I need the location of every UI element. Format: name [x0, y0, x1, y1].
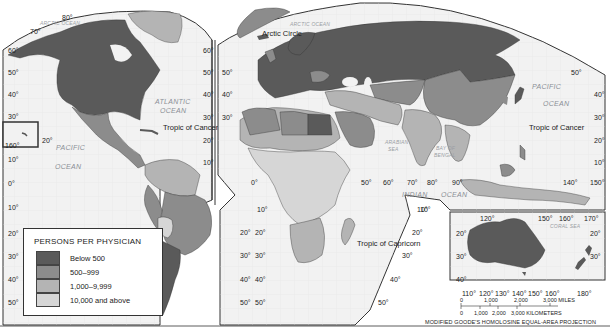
atlantic-label-2: OCEAN — [160, 107, 186, 114]
bay-of-bengal-label-2: BENGAL — [434, 153, 456, 158]
lon-label: 140° — [563, 179, 577, 186]
lon-label: 50° — [361, 179, 372, 186]
scale-km-2000: 2,000 — [492, 311, 506, 317]
legend-label: 1,000–9,999 — [70, 282, 112, 291]
lat-label: 40° — [390, 276, 401, 283]
lat-label: 50° — [222, 69, 233, 76]
aus-lon-label: 120° — [479, 290, 493, 297]
scale-miles-2000: 2,000 — [514, 298, 528, 304]
southern-africa — [290, 218, 325, 263]
scale-km-3000: 3,000 KILOMETERS — [511, 311, 562, 317]
aus-lat-label: 30° — [456, 253, 467, 260]
arctic-circle-label: Arctic Circle — [262, 30, 302, 38]
scale-km-1000: 1,000 — [474, 311, 488, 317]
legend-item-below-500: Below 500 — [36, 251, 156, 265]
lat-label: 50° — [8, 69, 19, 76]
lat-label: 40° — [240, 276, 251, 283]
scale-km-0: 0 — [460, 311, 463, 317]
indian-label-1: INDIAN — [402, 191, 428, 198]
lat-label: 30° — [402, 252, 413, 259]
lat-label: 50° — [255, 299, 266, 306]
legend-item-1000-9999: 1,000–9,999 — [36, 279, 156, 293]
lat-label: 20° — [203, 137, 214, 144]
lon-label: 150° — [590, 179, 604, 186]
aus-lon-label: 140° — [512, 290, 526, 297]
legend-item-10000-above: 10,000 and above — [36, 293, 156, 307]
aus-lon-label: 120° — [480, 215, 494, 222]
legend-swatch — [36, 293, 60, 307]
aus-lon-label: 160° — [559, 215, 573, 222]
legend-swatch — [36, 279, 60, 293]
lat-label: 30° — [255, 252, 266, 259]
lat-label: 10° — [8, 156, 19, 163]
arctic-ocean-label: ARCTIC OCEAN — [40, 21, 80, 26]
aus-lon-label: 170° — [584, 215, 598, 222]
lat-label: 30° — [222, 114, 233, 121]
lat-label: 40° — [8, 276, 19, 283]
tropic-of-cancer-right-label: Tropic of Cancer — [529, 124, 584, 132]
legend-label: 500–999 — [70, 268, 99, 277]
aus-lat-label: 30° — [590, 253, 601, 260]
legend-swatch — [36, 265, 60, 279]
aus-lon-label: 150° — [528, 290, 542, 297]
libya — [280, 111, 308, 135]
lat-label: 30° — [203, 114, 214, 121]
equator-label: 0° — [251, 179, 258, 186]
lat-label: 50° — [378, 299, 389, 306]
pacific-left-label-2: OCEAN — [55, 163, 81, 170]
lat-label: 30° — [240, 252, 251, 259]
aus-lat-label: 20° — [590, 230, 601, 237]
arabian-sea-label-2: SEA — [388, 147, 399, 152]
lat-label: 40° — [222, 91, 233, 98]
lon-label: 60° — [383, 179, 394, 186]
lat-label: 10° — [203, 159, 214, 166]
hawaii-lat-label: 20° — [42, 137, 53, 144]
lat-label: 20° — [240, 229, 251, 236]
lat-label: 60° — [203, 47, 214, 54]
lat-label: 20° — [255, 229, 266, 236]
arctic-ocean-label-right: ARCTIC OCEAN — [290, 22, 330, 27]
aus-lon-label: 160° — [545, 290, 559, 297]
aus-lat-label: 20° — [456, 230, 467, 237]
scale-miles-1000: 1,000 — [484, 298, 498, 304]
lat-label: 50° — [8, 299, 19, 306]
lat-label: 40° — [203, 91, 214, 98]
indian-label-2: OCEAN — [441, 191, 467, 198]
lat-label: 10° — [420, 206, 431, 213]
projection-label: MODIFIED GOODE'S HOMOLOSINE EQUAL-AREA P… — [425, 320, 596, 326]
lat-label: 40° — [255, 276, 266, 283]
lat-label: 50° — [240, 299, 251, 306]
legend-label: 10,000 and above — [70, 296, 130, 305]
lat-label: 50° — [571, 69, 582, 76]
coral-sea-label: CORAL SEA — [550, 224, 580, 229]
lat-label: 60° — [8, 47, 19, 54]
lon-label: 90° — [452, 179, 463, 186]
aus-lat-label: 40° — [456, 276, 467, 283]
lat-label: 20° — [594, 137, 605, 144]
lat-label: 30° — [8, 113, 19, 120]
aus-lon-label: 180° — [577, 290, 591, 297]
bay-of-bengal-label-1: BAY OF — [436, 146, 455, 151]
lon-label: 70° — [407, 179, 418, 186]
atlantic-label-1: ATLANTIC — [155, 98, 191, 105]
lat-label: 10° — [8, 204, 19, 211]
legend-item-500-999: 500–999 — [36, 265, 156, 279]
tropic-of-capricorn-label: Tropic of Capricorn — [357, 240, 421, 248]
aus-lon-label: 130° — [495, 290, 509, 297]
lat-label: 10° — [257, 206, 268, 213]
aus-lon-label: 110° — [462, 290, 476, 297]
lat-label: 10° — [594, 159, 605, 166]
hawaii-lon-label: 160° — [5, 142, 19, 149]
pacific-right-label-2: OCEAN — [543, 100, 569, 107]
scale-miles-3000: 3,000 MILES — [543, 298, 575, 304]
lat-label: 70° — [30, 28, 41, 35]
lon-label: 80° — [427, 179, 438, 186]
lat-label: 40° — [8, 91, 19, 98]
lat-label: 40° — [594, 91, 605, 98]
legend: PERSONS PER PHYSICIAN Below 500 500–999 … — [23, 228, 163, 316]
pacific-left-label-1: PACIFIC — [56, 144, 85, 151]
arabian-sea-label-1: ARABIAN — [385, 140, 408, 145]
lat-label: 50° — [203, 69, 214, 76]
scale-miles-0: 0 — [460, 298, 463, 304]
pacific-right-label-1: PACIFIC — [532, 83, 561, 90]
